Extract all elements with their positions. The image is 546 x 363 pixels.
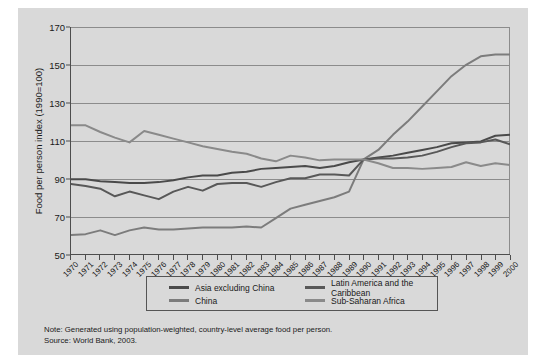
plot-area-wrapper: Food per person index (1990=100) 5070901… bbox=[70, 27, 510, 255]
chart-legend: Asia excluding ChinaChina Latin America … bbox=[146, 276, 438, 311]
x-tick-label: 2000 bbox=[501, 260, 520, 279]
x-tick-mark bbox=[261, 255, 262, 260]
x-tick-mark bbox=[187, 255, 188, 260]
plot-area bbox=[70, 27, 510, 255]
note-text: Note: Generated using population-weighte… bbox=[44, 325, 332, 336]
series-line bbox=[71, 125, 510, 169]
x-tick-mark bbox=[481, 255, 482, 260]
series-line bbox=[71, 135, 510, 183]
x-tick-mark bbox=[85, 255, 86, 260]
x-tick-mark bbox=[114, 255, 115, 260]
x-tick-mark bbox=[510, 255, 511, 260]
x-tick-mark bbox=[451, 255, 452, 260]
x-tick-mark bbox=[202, 255, 203, 260]
y-tick-label: 90 bbox=[54, 174, 65, 185]
x-tick-mark bbox=[393, 255, 394, 260]
legend-item[interactable]: Asia excluding China bbox=[169, 281, 315, 294]
x-tick-mark bbox=[217, 255, 218, 260]
y-tick-label: 170 bbox=[49, 22, 65, 33]
y-tick-label: 50 bbox=[54, 250, 65, 261]
x-tick-mark bbox=[231, 255, 232, 260]
legend-item[interactable]: China bbox=[169, 294, 315, 307]
legend-swatch bbox=[305, 299, 325, 302]
y-tick-label: 70 bbox=[54, 212, 65, 223]
x-tick-label: 1973 bbox=[105, 260, 124, 279]
chart-notes: Note: Generated using population-weighte… bbox=[44, 325, 332, 346]
figure-panel: Food per person index (1990=100) 5070901… bbox=[18, 8, 528, 355]
y-tick-label: 150 bbox=[49, 60, 65, 71]
y-axis-label: Food per person index (1990=100) bbox=[30, 27, 48, 255]
y-tick-label: 110 bbox=[50, 136, 65, 147]
legend-label: Sub-Saharan Africa bbox=[331, 296, 405, 306]
x-tick-mark bbox=[143, 255, 144, 260]
x-tick-mark bbox=[334, 255, 335, 260]
x-tick-label: 1997 bbox=[457, 260, 476, 279]
x-tick-mark bbox=[173, 255, 174, 260]
x-tick-mark bbox=[99, 255, 100, 260]
legend-item[interactable]: Latin America and the Caribbean bbox=[305, 281, 451, 294]
x-tick-mark bbox=[290, 255, 291, 260]
legend-label: Asia excluding China bbox=[195, 283, 274, 293]
x-tick-mark bbox=[422, 255, 423, 260]
legend-swatch bbox=[169, 286, 189, 289]
legend-column-right: Latin America and the CaribbeanSub-Sahar… bbox=[305, 281, 451, 307]
x-tick-label: 1970 bbox=[61, 260, 80, 279]
x-tick-mark bbox=[363, 255, 364, 260]
x-tick-mark bbox=[495, 255, 496, 260]
x-tick-mark bbox=[407, 255, 408, 260]
y-tick-label: 130 bbox=[49, 98, 65, 109]
x-tick-mark bbox=[378, 255, 379, 260]
x-tick-mark bbox=[319, 255, 320, 260]
x-tick-mark bbox=[466, 255, 467, 260]
series-lines bbox=[71, 27, 510, 254]
x-tick-mark bbox=[437, 255, 438, 260]
legend-column-left: Asia excluding ChinaChina bbox=[169, 281, 315, 307]
legend-label: Latin America and the Caribbean bbox=[331, 278, 451, 298]
x-tick-mark bbox=[349, 255, 350, 260]
source-text: Source: World Bank, 2003. bbox=[44, 336, 332, 347]
legend-label: China bbox=[195, 296, 217, 306]
x-tick-mark bbox=[70, 255, 71, 260]
legend-swatch bbox=[169, 299, 189, 302]
series-line bbox=[71, 140, 510, 200]
x-tick-mark bbox=[275, 255, 276, 260]
x-tick-mark bbox=[129, 255, 130, 260]
x-tick-mark bbox=[305, 255, 306, 260]
x-tick-mark bbox=[246, 255, 247, 260]
x-tick-mark bbox=[158, 255, 159, 260]
legend-swatch bbox=[305, 286, 325, 289]
